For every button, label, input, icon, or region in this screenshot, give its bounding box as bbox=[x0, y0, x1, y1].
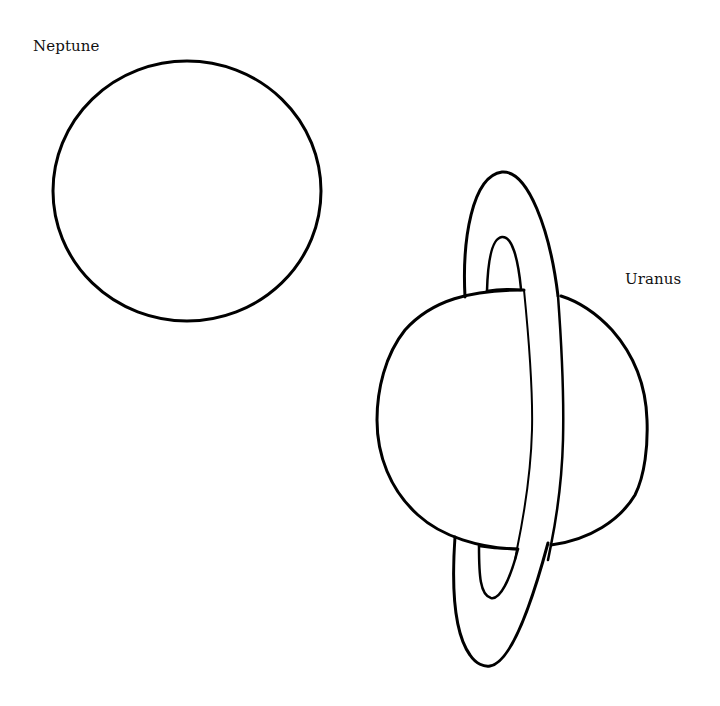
planet-drawing bbox=[0, 0, 720, 706]
uranus-planet bbox=[377, 290, 647, 549]
neptune-planet bbox=[53, 61, 321, 321]
uranus-ring-front bbox=[515, 290, 563, 560]
uranus-ring-bottom bbox=[454, 537, 548, 666]
uranus-ring-back-top bbox=[464, 172, 558, 297]
